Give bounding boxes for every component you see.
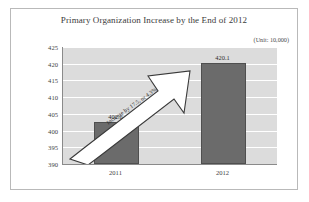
x-tick-label-2012: 2012 — [216, 169, 229, 176]
y-tick-label: 420 — [28, 60, 58, 67]
y-tick-label: 400 — [28, 127, 58, 134]
x-tick-label-2011: 2011 — [109, 169, 122, 176]
y-tick-label: 395 — [28, 144, 58, 151]
bar-2012[interactable] — [201, 63, 246, 164]
y-tick-label: 390 — [28, 161, 58, 168]
chart-title: Primary Organization Increase by the End… — [10, 15, 298, 25]
y-tick-label: 410 — [28, 94, 58, 101]
y-tick-label: 425 — [28, 44, 58, 51]
gridline — [63, 47, 277, 48]
y-tick-label: 405 — [28, 110, 58, 117]
chart-figure: Primary Organization Increase by the End… — [0, 0, 309, 202]
y-tick-label: 415 — [28, 77, 58, 84]
bar-value-label-2012: 420.1 — [215, 54, 229, 61]
unit-note: (Unit: 10,000) — [254, 36, 289, 43]
plot-area — [62, 47, 277, 165]
y-axis-tick-labels: 425 420 415 410 405 400 395 390 — [26, 47, 58, 164]
bar-2011[interactable] — [94, 122, 139, 164]
